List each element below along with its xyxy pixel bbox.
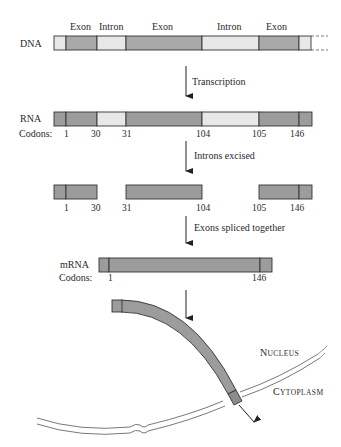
excised-codon-30: 30 — [91, 203, 101, 213]
dna-label-exon-3: Exon — [266, 21, 287, 32]
rna-codon-1: 1 — [64, 129, 69, 139]
dna-label-exon-1: Exon — [70, 21, 91, 32]
mrna-bar — [99, 258, 272, 272]
gene-expression-diagram: Exon Intron Exon Intron Exon DNA Transcr… — [0, 0, 341, 447]
excised-codon-104: 104 — [196, 203, 211, 213]
rna-row: RNA Codons: 1 30 31 104 105 146 — [19, 112, 312, 139]
rna-codon-146: 146 — [290, 129, 305, 139]
rna-codon-105: 105 — [252, 129, 267, 139]
excised-codon-105: 105 — [252, 203, 267, 213]
introns-excised-label: Introns excised — [194, 150, 255, 161]
nucleus-label: NUCLEUS — [260, 347, 299, 358]
exon-fragments — [54, 185, 312, 199]
export-arrow-icon — [239, 405, 254, 422]
mrna-codon-1: 1 — [108, 273, 113, 283]
cytoplasm-label: CYTOPLASM — [273, 386, 323, 397]
rna-codon-30: 30 — [91, 129, 101, 139]
exons-spliced-step: Exons spliced together — [186, 216, 286, 243]
rna-codon-104: 104 — [196, 129, 211, 139]
dna-bar — [54, 36, 311, 50]
excised-codon-146: 146 — [290, 203, 305, 213]
mrna-label: mRNA — [60, 259, 90, 270]
rna-codons-label: Codons: — [19, 128, 52, 139]
transcription-step: Transcription — [186, 66, 246, 96]
dna-continuation-dashes — [311, 36, 328, 50]
excised-codon-1: 1 — [64, 203, 69, 213]
transcription-label: Transcription — [192, 76, 246, 87]
rna-label: RNA — [20, 113, 42, 124]
dna-label-exon-2: Exon — [152, 21, 173, 32]
excised-exons-row: 1 30 31 104 105 146 — [54, 185, 312, 213]
mrna-codons-label: Codons: — [59, 272, 92, 283]
dna-row: Exon Intron Exon Intron Exon DNA — [20, 21, 328, 50]
dna-label-intron-1: Intron — [99, 21, 123, 32]
rna-codon-31: 31 — [122, 129, 132, 139]
rna-bar — [54, 112, 312, 126]
mrna-codon-146: 146 — [252, 273, 267, 283]
dna-label: DNA — [20, 38, 42, 49]
introns-excised-step: Introns excised — [186, 141, 255, 171]
mrna-row: mRNA Codons: 1 146 — [59, 258, 272, 283]
excised-codon-31: 31 — [122, 203, 132, 213]
dna-label-intron-2: Intron — [217, 21, 241, 32]
exported-mrna — [112, 300, 254, 422]
exons-spliced-label: Exons spliced together — [194, 222, 286, 233]
